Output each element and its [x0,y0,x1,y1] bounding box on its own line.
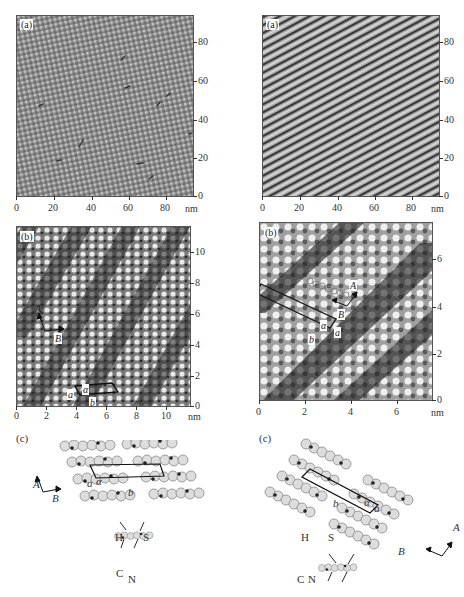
x-tick-label: 40 [332,203,342,213]
y-tick-label: 0 [198,191,203,201]
atom-C-label: C [116,568,123,578]
x-tick [54,196,55,200]
angle-label: α [96,476,102,486]
y-tick-label: 4 [195,340,200,350]
x-tick-label: 10 [161,411,171,421]
x-tick [397,400,398,404]
cell-b-label: b [333,498,339,508]
y-tick-label: 10 [195,247,205,257]
x-tick-label: 60 [369,203,379,213]
x-tick-label: 4 [74,411,79,421]
y-tick [193,120,197,121]
atom-N-label: N [128,574,136,584]
axis-B-label: B [54,333,62,344]
panel-label: (b) [20,231,34,242]
x-tick-label: 6 [394,407,399,417]
x-tick [92,196,93,200]
x-tick-label: 80 [406,203,416,213]
x-unit-label: nm [431,204,444,214]
x-unit-label: nm [185,204,198,214]
x-tick-label: 2 [302,407,307,417]
axis-B-label: B [52,493,59,503]
y-tick-label: 40 [198,115,208,125]
y-tick [432,400,436,401]
y-tick-label: 2 [437,349,442,359]
atom-H-label: H [301,532,309,542]
panel-label: (b) [264,227,278,238]
y-tick-label: 8 [195,278,200,288]
y-tick [439,120,443,121]
x-tick-label: 8 [134,411,139,421]
x-tick-label: 0 [14,203,19,213]
y-tick [439,81,443,82]
panel-label: (c) [16,433,28,443]
x-tick [259,400,260,404]
cell-b-label: b [308,334,315,345]
y-tick [439,196,443,197]
x-tick-label: 60 [123,203,133,213]
stm-image-right-b: (b) A B α a b [259,222,433,401]
cell-a-label: a [87,478,93,488]
y-tick-label: 80 [444,37,454,47]
x-tick-label: 20 [294,203,304,213]
x-tick [305,400,306,404]
atom-N-label: N [308,574,316,584]
cell-a-label: a [67,389,74,400]
x-tick [262,196,263,200]
x-tick-label: 6 [104,411,109,421]
x-tick [351,400,352,404]
y-tick [432,354,436,355]
y-tick [193,158,197,159]
y-tick-label: 40 [444,115,454,125]
angle-label: α [364,497,370,507]
y-tick [432,307,436,308]
y-tick-label: 80 [198,37,208,47]
y-tick [190,406,194,407]
stm-image-right-a: (a) [262,15,440,197]
axis-A-label: A [33,479,40,489]
molecule-rows [265,439,413,549]
x-tick [166,196,167,200]
panel-label: (a) [20,19,33,30]
stm-image-left-b: (b) A B α a b [16,226,191,407]
axis-arrows [426,542,452,556]
y-tick-label: 0 [444,191,449,201]
x-tick-label: 80 [160,203,170,213]
y-tick-label: 6 [437,254,442,264]
y-tick-label: 2 [195,371,200,381]
y-tick [190,376,194,377]
y-tick [193,81,197,82]
x-tick-label: 40 [86,203,96,213]
y-tick-label: 60 [198,76,208,86]
angle-label: α [320,320,327,331]
molecular-rows-texture [17,227,191,407]
x-tick-label: 20 [48,203,58,213]
y-tick-label: 6 [195,309,200,319]
x-tick-label: 0 [14,411,19,421]
atom-S-label: S [143,532,149,542]
molecular-model-right [262,432,462,582]
y-tick-label: 0 [195,401,200,411]
x-tick [129,196,130,200]
y-tick [439,158,443,159]
x-tick [375,196,376,200]
atom-S-label: S [328,532,334,542]
lattice-texture [17,16,194,197]
stm-image-left-a: (a) [16,15,194,197]
y-tick [190,283,194,284]
y-tick-label: 20 [198,153,208,163]
stripe-texture [263,16,440,197]
y-tick-label: 60 [444,76,454,86]
axis-A-label: A [349,280,357,291]
x-tick-label: 0 [260,203,265,213]
x-tick-label: 4 [348,407,353,417]
cell-b-label: b [128,487,134,497]
molecular-rows-texture [260,223,433,401]
y-tick [190,314,194,315]
x-tick [412,196,413,200]
y-tick [190,252,194,253]
cell-a-label: a [334,327,341,338]
x-tick-label: 2 [44,411,49,421]
x-tick [300,196,301,200]
y-tick-label: 20 [444,153,454,163]
